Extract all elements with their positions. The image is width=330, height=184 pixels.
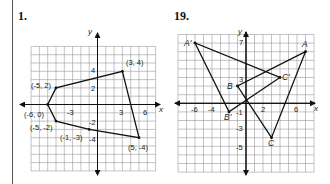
x-tick-label: -3 xyxy=(67,108,74,117)
y-tick-label: -3 xyxy=(236,124,243,133)
y-tick-label: -1 xyxy=(236,108,243,117)
point-label: (-5, -2) xyxy=(30,123,53,132)
x-tick-label: -6 xyxy=(191,105,198,114)
graphs-canvas: x y -3 3 6 4 2 -2 -4 (3, 4) (-5, 2) (-6,… xyxy=(0,0,330,184)
x-axis-label-19: x xyxy=(313,104,319,113)
y-tick-label: 2 xyxy=(91,84,95,93)
x-tick-label: -4 xyxy=(208,105,215,114)
y-tick-label: -5 xyxy=(236,143,243,152)
point-label: (3, 4) xyxy=(126,58,144,67)
point-label-c: C xyxy=(268,138,275,148)
x-axis-label-1: x xyxy=(158,105,164,114)
y-tick-label: 3 xyxy=(239,75,243,84)
x-tick-label: 3 xyxy=(119,108,123,117)
y-tick-label: -4 xyxy=(89,135,96,144)
y-tick-label: 7 xyxy=(239,38,243,47)
graph-1: x y -3 3 6 4 2 -2 -4 (3, 4) (-5, 2) (-6,… xyxy=(20,27,164,175)
x-tick-label: 2 xyxy=(261,105,265,114)
point-label-a: A xyxy=(301,39,308,49)
point-label: (-5, 2) xyxy=(31,81,52,90)
point-label-a-prime: A' xyxy=(183,38,192,48)
point-label-b: B xyxy=(227,81,233,91)
y-tick-label: -2 xyxy=(89,118,96,127)
y-axis-label-1: y xyxy=(87,27,93,36)
point-label: (-1, -3) xyxy=(60,133,83,142)
x-tick-label: 6 xyxy=(294,105,298,114)
x-tick-label: 6 xyxy=(143,108,147,117)
point-label: (5, -4) xyxy=(128,143,149,152)
point-label: (-6, 0) xyxy=(24,110,45,119)
graph-19: x y -6 -4 2 6 7 3 -1 -3 -5 A' A B C' B' … xyxy=(175,27,319,175)
y-tick-label: 4 xyxy=(91,66,95,75)
point-label-c-prime: C' xyxy=(282,72,290,82)
point-label-b-prime: B' xyxy=(224,112,232,122)
